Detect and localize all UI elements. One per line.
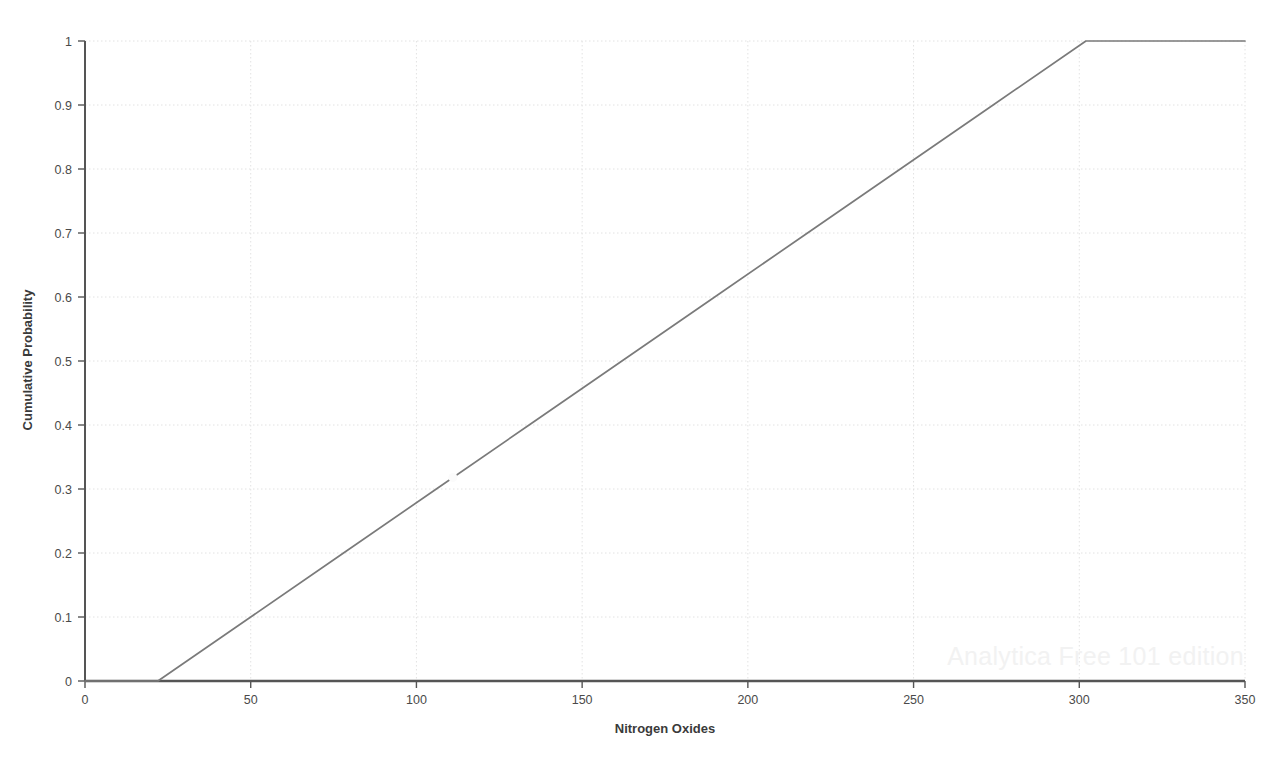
x-tick-label: 350	[1235, 693, 1256, 707]
x-axis-title: Nitrogen Oxides	[615, 721, 715, 736]
x-tick-label: 150	[572, 693, 593, 707]
y-tick-label: 0	[65, 675, 72, 689]
y-tick-label: 0.5	[55, 355, 72, 369]
y-axis-title: Cumulative Probability	[20, 289, 35, 431]
x-tick-label: 50	[244, 693, 258, 707]
y-tick-label: 0.1	[55, 611, 72, 625]
chart-canvas: Analytica Free 101 edition 00.10.20.30.4…	[0, 0, 1288, 765]
y-tick-label: 0.4	[55, 419, 72, 433]
watermark-label: Analytica Free 101 edition	[947, 642, 1244, 670]
cumulative-probability-chart: Analytica Free 101 edition 00.10.20.30.4…	[0, 0, 1288, 765]
x-tick-label: 0	[82, 693, 89, 707]
y-tick-label: 0.7	[55, 227, 72, 241]
x-tick-label: 300	[1069, 693, 1090, 707]
x-tick-label: 200	[737, 693, 758, 707]
y-tick-label: 0.9	[55, 99, 72, 113]
x-tick-label: 250	[903, 693, 924, 707]
y-tick-label: 1	[65, 35, 72, 49]
annotation-group	[448, 473, 457, 482]
x-tick-label: 100	[406, 693, 427, 707]
y-tick-label: 0.3	[55, 483, 72, 497]
y-tick-label: 0.2	[55, 547, 72, 561]
line-artifact-marker	[448, 473, 457, 482]
y-tick-label: 0.6	[55, 291, 72, 305]
y-tick-label: 0.8	[55, 163, 72, 177]
